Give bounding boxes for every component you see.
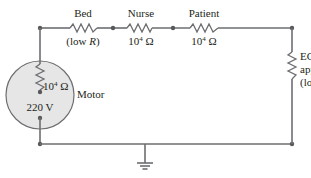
circuit-diagram: Bed (low R) Nurse 104 Ω Patient 104 Ω EC… (0, 0, 311, 178)
ecg-resistor (288, 52, 296, 79)
nurse-value: 104 Ω (128, 35, 153, 47)
junction-dot-nurse-patient (171, 26, 175, 30)
motor-terminal-dot-upper (38, 90, 42, 94)
nurse-label: Nurse (128, 7, 154, 19)
patient-label: Patient (189, 7, 220, 19)
ecg-label-line1: ECG (300, 50, 311, 62)
ecg-label-line2: apparatus (300, 63, 311, 75)
bed-resistor (70, 24, 97, 32)
patient-value: 104 Ω (191, 35, 216, 47)
junction-dot-bed-nurse (111, 26, 115, 30)
motor-label: Motor (77, 88, 105, 100)
bed-label: Bed (74, 7, 92, 19)
nurse-resistor (127, 24, 152, 32)
bed-value: (low R) (66, 35, 100, 48)
ecg-value: (low R) (300, 76, 311, 89)
patient-resistor (190, 24, 218, 32)
motor-voltage: 220 V (27, 101, 54, 113)
ground-icon (137, 144, 153, 169)
